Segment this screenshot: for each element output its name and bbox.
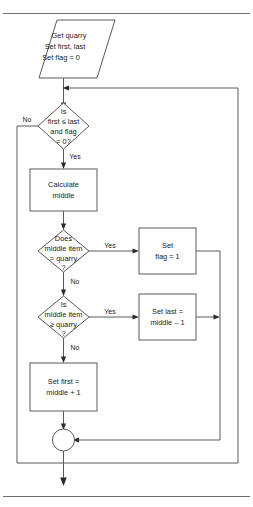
node-calc-middle-line-1: Calculate bbox=[48, 180, 79, 189]
node-loop-test-line-2: first ≤ last bbox=[48, 117, 80, 126]
node-set-first-line-1: Set first = bbox=[48, 377, 79, 386]
edge-label-ge-test-yes: Yes bbox=[104, 308, 116, 315]
node-loop-test-line-4: = 0? bbox=[56, 137, 71, 146]
connector-set-flag-to-junction bbox=[196, 251, 220, 440]
flowchart-canvas: Get quarry Set first, last Set flag = 0 … bbox=[0, 0, 253, 507]
node-equal-test-line-2: middle item bbox=[45, 244, 83, 253]
node-ge-test-line-3: ≥ quarry bbox=[50, 320, 77, 329]
node-junction[interactable] bbox=[53, 429, 75, 451]
rectangle-shape bbox=[30, 169, 97, 211]
node-ge-test[interactable]: Is middle item ≥ quarry ? bbox=[38, 296, 89, 338]
edge-label-equal-test-yes: Yes bbox=[104, 242, 116, 249]
node-set-last-line-2: middle – 1 bbox=[150, 318, 184, 327]
edge-label-ge-test-no: No bbox=[71, 344, 80, 351]
node-equal-test-line-4: ? bbox=[61, 263, 65, 272]
node-set-first[interactable]: Set first = middle + 1 bbox=[30, 363, 97, 411]
node-ge-test-line-1: Is bbox=[61, 300, 67, 309]
node-loop-test-line-3: and flag bbox=[50, 127, 76, 136]
node-start-line-1: Get quarry bbox=[52, 31, 87, 40]
arrowhead-exit bbox=[60, 478, 67, 487]
node-set-first-line-2: middle + 1 bbox=[46, 388, 80, 397]
arrowhead-set-first-in bbox=[61, 357, 66, 364]
node-equal-test[interactable]: Does middle item = quarry ? bbox=[38, 230, 89, 272]
edge-label-equal-test-no: No bbox=[71, 278, 80, 285]
rectangle-shape bbox=[139, 294, 196, 340]
circle-shape bbox=[53, 429, 75, 451]
arrowhead-set-flag-in bbox=[133, 248, 140, 253]
node-set-last[interactable]: Set last = middle – 1 bbox=[139, 294, 196, 340]
node-ge-test-line-2: middle item bbox=[45, 310, 83, 319]
arrowhead-equal-test-in bbox=[61, 224, 66, 231]
node-start[interactable]: Get quarry Set first, last Set flag = 0 bbox=[39, 20, 115, 78]
node-start-line-3: Set flag = 0 bbox=[42, 53, 80, 62]
rectangle-shape bbox=[139, 228, 196, 274]
node-calc-middle-line-2: middle bbox=[53, 191, 75, 200]
node-set-flag-line-2: flag = 1 bbox=[155, 252, 179, 261]
flowchart-figure: Get quarry Set first, last Set flag = 0 … bbox=[0, 0, 253, 507]
node-loop-test[interactable]: Is first ≤ last and flag = 0? bbox=[38, 103, 89, 149]
rectangle-shape bbox=[30, 363, 97, 411]
node-calc-middle[interactable]: Calculate middle bbox=[30, 169, 97, 211]
node-start-line-2: Set first, last bbox=[45, 42, 86, 51]
edge-label-loop-test-yes: Yes bbox=[69, 153, 81, 160]
node-equal-test-line-1: Does bbox=[55, 234, 73, 243]
arrowhead-ge-test-in bbox=[61, 290, 66, 297]
node-set-flag[interactable]: Set flag = 1 bbox=[139, 228, 196, 274]
arrowhead-inner-return bbox=[214, 314, 221, 319]
node-set-flag-line-1: Set bbox=[162, 241, 173, 250]
node-set-last-line-1: Set last = bbox=[152, 307, 183, 316]
edge-label-loop-test-no: No bbox=[23, 116, 32, 123]
node-loop-test-line-1: Is bbox=[61, 107, 67, 116]
connector-junction-loop-back bbox=[64, 443, 239, 463]
node-ge-test-line-4: ? bbox=[61, 329, 65, 338]
arrowhead-calc-middle-in bbox=[61, 163, 66, 170]
arrowhead-set-last-in bbox=[133, 314, 140, 319]
node-equal-test-line-3: = quarry bbox=[50, 254, 78, 263]
